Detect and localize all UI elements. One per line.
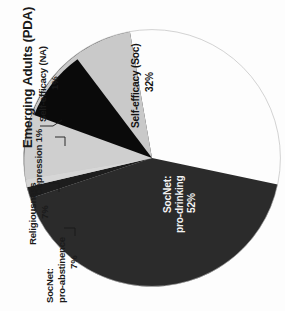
slice-label-self-efficacy-soc-text: Self-efficacy (Soc) bbox=[130, 43, 141, 128]
slice-label-socnet-drink-pct-text: 52% bbox=[186, 193, 197, 213]
slice-label-self-efficacy-soc-pct-text: 32% bbox=[144, 72, 155, 92]
callout-socnet-pro-abstinence-pct: 7% bbox=[69, 256, 80, 269]
slice-label-socnet-drink-l2-text: pro-drinking bbox=[174, 175, 185, 233]
slice-label-self-efficacy-soc: Self-efficacy (Soc) bbox=[130, 43, 142, 128]
callout-socnet-abst-l1-text: SocNet: bbox=[44, 268, 55, 303]
callout-socnet-abst-pct-text: 7% bbox=[68, 256, 79, 269]
callout-socnet-pro-abstinence-line1: SocNet: bbox=[45, 268, 56, 303]
callout-religiousness-pct: 7% bbox=[40, 206, 51, 219]
callout-religiousness: Religiousness bbox=[28, 183, 39, 245]
slice-label-socnet-drink-l1-text: SocNet: bbox=[162, 176, 173, 213]
callout-religiousness-text: Religiousness bbox=[27, 183, 38, 245]
callout-religiousness-pct-text: 7% bbox=[39, 206, 50, 219]
pie-chart-figure: Emerging Adults (PDA) Self-efficacy (NA)… bbox=[0, 0, 285, 311]
callout-self-efficacy-na-pct: 1% bbox=[50, 77, 61, 90]
callout-self-efficacy-na-pct-text: 1% bbox=[49, 77, 60, 90]
callout-socnet-abst-l2-text: pro-abstinence bbox=[56, 237, 67, 303]
callout-socnet-pro-abstinence-line2: pro-abstinence bbox=[57, 237, 68, 303]
slice-label-socnet-pro-drinking-line2: pro-drinking bbox=[174, 175, 186, 233]
callout-self-efficacy-na: Self-efficacy (NA) bbox=[38, 46, 49, 122]
page-title: Emerging Adults (PDA) bbox=[20, 7, 35, 148]
callout-self-efficacy-na-text: Self-efficacy (NA) bbox=[37, 46, 48, 122]
slice-label-socnet-pro-drinking-pct: 52% bbox=[186, 193, 198, 213]
slice-label-self-efficacy-soc-pct: 32% bbox=[144, 72, 156, 92]
slice-label-socnet-pro-drinking-line1: SocNet: bbox=[162, 176, 174, 213]
